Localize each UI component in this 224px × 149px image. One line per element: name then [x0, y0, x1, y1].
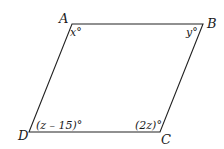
angle-label-b: y° — [185, 26, 198, 39]
parallelogram-diagram: A B C D x° y° (2z)° (z – 15)° — [0, 0, 224, 149]
angle-label-c: (2z)° — [135, 119, 162, 132]
vertex-label-c: C — [161, 132, 171, 147]
vertex-label-b: B — [206, 16, 217, 31]
vertex-label-d: D — [17, 128, 29, 143]
vertex-label-a: A — [58, 11, 68, 26]
angle-label-d: (z – 15)° — [36, 119, 82, 132]
parallelogram-shape — [29, 24, 203, 132]
angle-label-a: x° — [70, 26, 82, 39]
